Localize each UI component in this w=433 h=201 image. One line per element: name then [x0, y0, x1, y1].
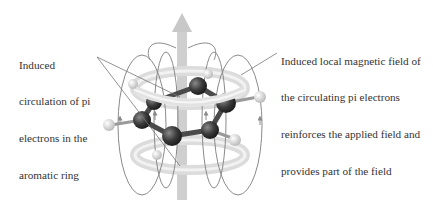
carbon-atom	[201, 121, 219, 139]
carbon-atom	[162, 126, 182, 146]
carbon-atom	[189, 77, 207, 95]
hydrogen-atom	[203, 69, 213, 79]
hydrogen-atom	[103, 119, 115, 131]
hydrogen-atom	[229, 134, 241, 146]
benzene-ring-current-diagram	[0, 0, 433, 201]
hydrogen-atom	[254, 91, 266, 103]
carbon-atom	[133, 111, 151, 129]
hydrogen-atom	[152, 150, 162, 160]
lower-ring-current-torus	[135, 140, 245, 170]
